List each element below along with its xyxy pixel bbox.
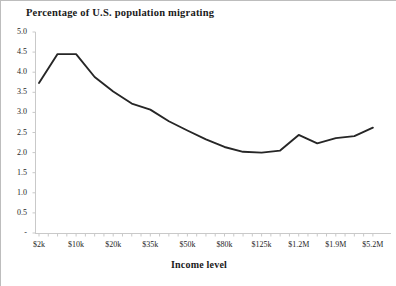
x-axis-tick-label: $5.2M	[351, 241, 395, 249]
y-axis-tick-label: 2.5	[3, 129, 27, 137]
y-axis	[33, 32, 36, 234]
y-axis-tick-label: 1.0	[3, 189, 27, 197]
y-axis-tick-label: 5.0	[3, 28, 27, 36]
y-axis-tick-label: 0.5	[3, 209, 27, 217]
y-axis-tick-label: -	[3, 229, 27, 237]
x-axis-title: Income level	[1, 259, 396, 270]
y-axis-tick-label: 3.0	[3, 108, 27, 116]
y-axis-tick-label: 4.5	[3, 48, 27, 56]
data-series-line	[39, 54, 373, 152]
chart-figure: Percentage of U.S. population migrating …	[0, 0, 396, 286]
y-axis-tick-label: 2.0	[3, 149, 27, 157]
y-axis-tick-label: 3.5	[3, 88, 27, 96]
y-axis-tick-label: 4.0	[3, 68, 27, 76]
x-axis	[36, 234, 392, 237]
y-axis-tick-label: 1.5	[3, 169, 27, 177]
